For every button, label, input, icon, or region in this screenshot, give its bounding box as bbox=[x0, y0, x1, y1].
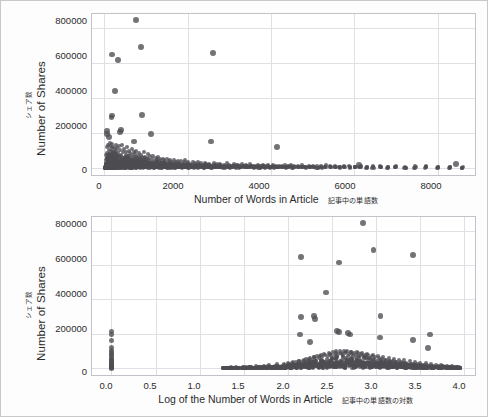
data-point-outlier bbox=[138, 44, 144, 50]
data-point-outlier bbox=[410, 252, 416, 258]
y-axis-label-bottom: Number of Shares bbox=[35, 266, 47, 361]
data-point-outlier bbox=[112, 88, 118, 94]
gridline-horizontal bbox=[92, 231, 475, 232]
data-point bbox=[386, 166, 390, 170]
data-point bbox=[259, 366, 263, 370]
chart-page: Number of Shares シェア数 800000 600000 4000… bbox=[0, 0, 488, 417]
y-tick-label: 600000 bbox=[37, 253, 87, 264]
data-point-outlier bbox=[131, 139, 137, 145]
data-point-outlier bbox=[371, 247, 377, 253]
plot-area-bottom bbox=[91, 216, 476, 376]
data-point bbox=[404, 166, 408, 170]
y-axis-label-top: Number of Shares bbox=[35, 61, 47, 156]
data-point-outlier bbox=[298, 254, 304, 260]
x-tick-label: 0.5 bbox=[130, 380, 170, 391]
data-point bbox=[142, 150, 146, 154]
data-point bbox=[460, 166, 464, 170]
gridline-horizontal bbox=[92, 98, 475, 99]
data-point-outlier bbox=[323, 290, 329, 296]
data-point-outlier bbox=[297, 332, 303, 338]
data-point bbox=[365, 165, 369, 169]
data-point-outlier bbox=[298, 314, 304, 320]
gridline-vertical bbox=[376, 217, 377, 375]
x-axis-label-top: Number of Words in Article記事中の単語数 bbox=[141, 193, 431, 205]
data-point-outlier bbox=[117, 129, 123, 135]
data-point bbox=[414, 366, 418, 370]
x-tick-label: 6000 bbox=[325, 180, 365, 191]
x-tick-label: 2.5 bbox=[307, 380, 347, 391]
gridline-horizontal bbox=[92, 334, 475, 335]
gridline-vertical bbox=[156, 217, 157, 375]
data-point-outlier bbox=[139, 112, 145, 118]
data-point bbox=[423, 166, 427, 170]
gridline-horizontal bbox=[92, 28, 475, 29]
data-point bbox=[236, 366, 240, 370]
data-point-outlier bbox=[336, 329, 342, 335]
data-point bbox=[430, 366, 434, 370]
data-point-outlier bbox=[378, 313, 384, 319]
gridline-vertical bbox=[288, 217, 289, 375]
x-tick-label: 8000 bbox=[411, 180, 451, 191]
data-point-outlier bbox=[210, 50, 216, 56]
x-tick-label: 1.5 bbox=[218, 380, 258, 391]
gridline-horizontal bbox=[92, 63, 475, 64]
x-tick-label: 2.0 bbox=[263, 380, 303, 391]
data-point-outlier bbox=[453, 161, 459, 167]
x-tick-label: 4000 bbox=[239, 180, 279, 191]
x-axis-label-bottom: Log of the Number of Words in Article記事中… bbox=[101, 393, 471, 405]
y-tick-label: 200000 bbox=[37, 120, 87, 131]
gridline-horizontal bbox=[92, 265, 475, 266]
x-tick-label: 3.5 bbox=[395, 380, 435, 391]
data-point-outlier bbox=[148, 131, 154, 137]
gridline-vertical bbox=[464, 217, 465, 375]
data-point-outlier bbox=[360, 220, 366, 226]
data-point-outlier bbox=[347, 332, 353, 338]
gridline-vertical bbox=[438, 14, 439, 175]
x-tick-label: 0 bbox=[79, 180, 119, 191]
data-point bbox=[421, 366, 425, 370]
data-point-outlier bbox=[133, 17, 139, 23]
data-point bbox=[325, 365, 329, 369]
x-tick-label: 1.0 bbox=[174, 380, 214, 391]
data-point bbox=[306, 366, 310, 370]
data-point bbox=[378, 165, 382, 169]
x-axis-label-jp-top: 記事中の単語数 bbox=[328, 197, 378, 204]
x-axis-label-jp-bottom: 記事中の単語数の対数 bbox=[342, 397, 414, 404]
data-point-outlier bbox=[109, 115, 115, 121]
data-point bbox=[329, 165, 333, 169]
data-point-zero-column bbox=[109, 365, 114, 370]
x-tick-label: 0.0 bbox=[86, 380, 126, 391]
y-tick-label: 800000 bbox=[37, 15, 87, 26]
x-tick-label: 4.0 bbox=[439, 380, 479, 391]
data-point-outlier bbox=[109, 52, 115, 58]
data-point bbox=[368, 366, 372, 370]
y-tick-label: 600000 bbox=[37, 50, 87, 61]
data-point bbox=[436, 166, 440, 170]
data-point-outlier bbox=[274, 144, 280, 150]
data-point bbox=[348, 166, 352, 170]
data-point bbox=[246, 366, 250, 370]
data-point-outlier bbox=[307, 339, 313, 345]
gridline-vertical bbox=[354, 14, 355, 175]
data-point-zero-column bbox=[109, 338, 114, 343]
y-tick-label: 800000 bbox=[37, 218, 87, 229]
data-point-outlier bbox=[427, 332, 433, 338]
data-point bbox=[458, 366, 462, 370]
data-point-outlier bbox=[410, 337, 416, 343]
plot-area-top bbox=[91, 13, 476, 176]
y-axis-label-jp-top: シェア数 bbox=[23, 91, 33, 119]
data-point-zero-column bbox=[109, 332, 114, 337]
gridline-vertical bbox=[271, 14, 272, 175]
data-point-outlier bbox=[377, 335, 383, 341]
gridline-vertical bbox=[244, 217, 245, 375]
y-axis-label-jp-bottom: シェア数 bbox=[23, 291, 33, 319]
panel-bottom: Number of Shares シェア数 800000 600000 4000… bbox=[1, 209, 488, 417]
data-point bbox=[252, 366, 256, 370]
data-point bbox=[448, 166, 452, 170]
y-tick-label: 0 bbox=[37, 164, 87, 175]
panel-top: Number of Shares シェア数 800000 600000 4000… bbox=[1, 1, 488, 209]
data-point-outlier bbox=[425, 345, 431, 351]
y-tick-label: 400000 bbox=[37, 288, 87, 299]
x-axis-label-en-bottom: Log of the Number of Words in Article bbox=[158, 393, 332, 405]
y-tick-label: 200000 bbox=[37, 323, 87, 334]
